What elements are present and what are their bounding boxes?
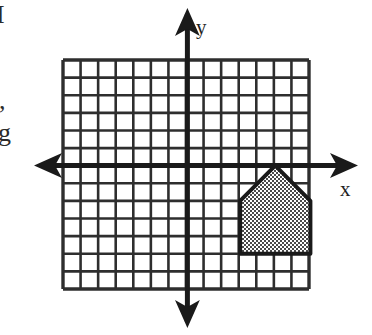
coordinate-plane-figure: x y xyxy=(0,0,372,335)
shaded-shape-layer xyxy=(240,166,310,254)
house-pentagon-shape xyxy=(240,166,310,254)
x-axis-label: x xyxy=(340,177,351,201)
y-axis-label: y xyxy=(196,15,207,39)
figure-canvas: I , g x y xyxy=(0,0,372,335)
